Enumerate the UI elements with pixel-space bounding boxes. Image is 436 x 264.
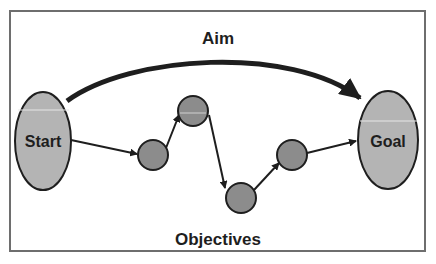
start-label: Start xyxy=(25,133,62,150)
aim-objectives-diagram: Aim Start Goal Objectives xyxy=(0,0,436,264)
objective-node-2 xyxy=(178,96,208,126)
goal-label: Goal xyxy=(370,133,406,150)
aim-label: Aim xyxy=(202,29,234,48)
goal-node: Goal xyxy=(358,91,418,189)
start-node: Start xyxy=(15,92,71,190)
objective-node-4 xyxy=(277,140,307,170)
objective-node-1 xyxy=(138,140,168,170)
objectives-label: Objectives xyxy=(175,230,261,249)
objective-node-3 xyxy=(226,183,256,213)
